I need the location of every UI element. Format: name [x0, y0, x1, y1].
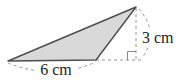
right-angle-mark	[128, 52, 137, 61]
triangle-figure-canvas: 6 cm 3 cm	[0, 0, 182, 82]
height-measurement-label: 3 cm	[142, 29, 174, 46]
triangle-shape	[8, 7, 136, 61]
base-measurement-label: 6 cm	[40, 61, 72, 78]
geometry-diagram: 6 cm 3 cm	[0, 0, 182, 82]
